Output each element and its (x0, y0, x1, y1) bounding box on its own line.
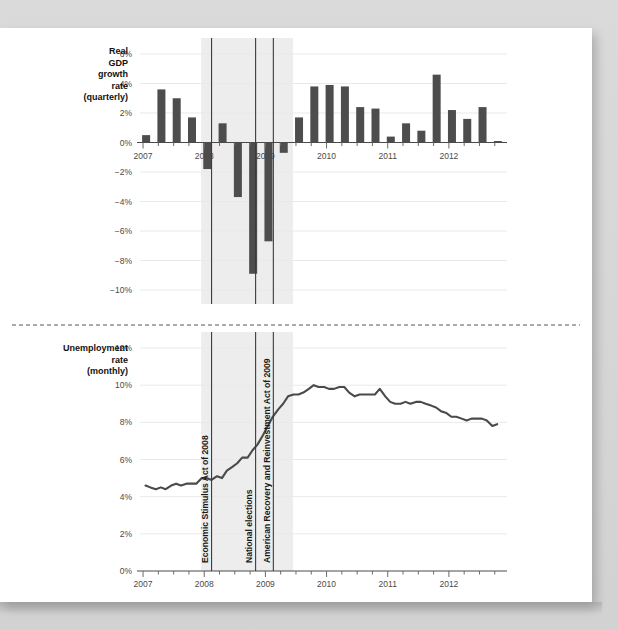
event-annotation-label: Economic Stimulus Act of 2008 (200, 435, 210, 563)
gdp-y-tick-label: −8% (115, 256, 133, 266)
gdp-y-tick-label: 0% (120, 138, 133, 148)
gdp-bar (142, 135, 150, 142)
gdp-bar (371, 109, 379, 143)
unemployment-y-tick-label: 10% (115, 380, 132, 390)
gdp-bar (387, 137, 395, 143)
gdp-y-tick-label: −10% (110, 285, 132, 295)
gdp-y-tick-label: −4% (115, 197, 133, 207)
gdp-x-tick-label: 2010 (317, 151, 336, 161)
gdp-bar (448, 110, 456, 142)
unemployment-x-tick-label: 2008 (195, 579, 214, 589)
gdp-panel-label-line: GDP (108, 58, 128, 68)
gdp-x-tick-label: 2012 (439, 151, 458, 161)
gdp-bar (219, 123, 227, 142)
unemployment-y-tick-label: 2% (120, 529, 133, 539)
gdp-bar (433, 75, 441, 143)
gdp-x-tick-label: 2009 (256, 151, 275, 161)
unemployment-x-tick-label: 2012 (439, 579, 458, 589)
axes-layer (137, 143, 507, 578)
gdp-bar (310, 86, 318, 142)
gdp-bar (417, 131, 425, 143)
unemployment-line-layer (146, 385, 498, 489)
gdp-bar (479, 107, 487, 142)
unemployment-x-tick-label: 2010 (317, 579, 336, 589)
event-annotation-label: American Recovery and Reinvestment Act o… (262, 358, 272, 563)
unemployment-y-tick-label: 0% (120, 566, 133, 576)
gdp-bar (341, 86, 349, 142)
event-annotation-label: National elections (244, 489, 254, 563)
recession-band-gdp (201, 38, 293, 304)
gdp-bar (356, 107, 364, 142)
gdp-bar (157, 89, 165, 142)
gdp-y-tick-label: −6% (115, 226, 133, 236)
unemployment-x-tick-label: 2009 (256, 579, 275, 589)
gdp-y-tick-label: −2% (115, 167, 133, 177)
unemployment-y-tick-label: 8% (120, 417, 133, 427)
gdp-panel-label-line: growth (98, 69, 128, 79)
gdp-panel-label-line: Real (109, 46, 128, 56)
gdp-bar (295, 117, 303, 142)
gdp-gridlines (140, 54, 507, 290)
chart-svg: 6%4%2%0%−2%−4%−6%−8%−10%12%10%8%6%4%2%0%… (0, 0, 618, 629)
gdp-bars-layer (142, 75, 502, 274)
gdp-bar (234, 143, 242, 198)
unemployment-panel-label-line: rate (111, 355, 128, 365)
dual-panel-chart: 6%4%2%0%−2%−4%−6%−8%−10%12%10%8%6%4%2%0%… (0, 0, 618, 629)
gdp-panel-label-line: (quarterly) (83, 92, 128, 102)
gdp-bar (402, 123, 410, 142)
gdp-x-tick-label: 2011 (379, 151, 398, 161)
unemployment-line (146, 385, 498, 489)
gdp-y-tick-label: 2% (120, 108, 133, 118)
gdp-bar (188, 117, 196, 142)
panel-side-labels: RealGDPgrowthrate(quarterly)Unemployment… (63, 46, 128, 376)
unemployment-panel-label-line: (monthly) (87, 366, 128, 376)
unemployment-gridlines (140, 348, 507, 534)
gdp-x-tick-label: 2007 (134, 151, 153, 161)
unemployment-y-tick-label: 4% (120, 492, 133, 502)
unemployment-x-tick-label: 2011 (379, 579, 398, 589)
gdp-bar (173, 98, 181, 142)
unemployment-y-tick-label: 6% (120, 455, 133, 465)
unemployment-panel-label-line: Unemployment (63, 343, 128, 353)
unemployment-x-tick-label: 2007 (134, 579, 153, 589)
gdp-bar (326, 85, 334, 143)
gdp-bar (463, 119, 471, 143)
gdp-panel-label-line: rate (111, 81, 128, 91)
